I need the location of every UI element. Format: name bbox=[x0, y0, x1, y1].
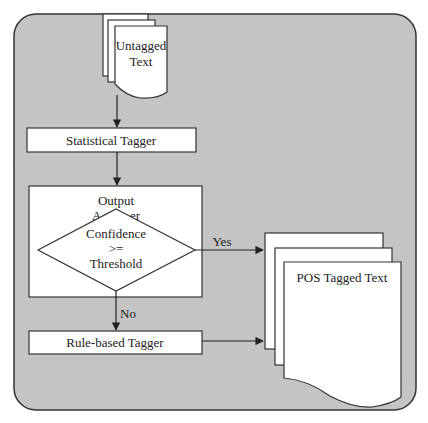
yes-label: Yes bbox=[213, 234, 232, 249]
flowchart-diagram: Untagged Text Statistical Tagger Output … bbox=[0, 0, 428, 423]
rule-based-tagger-label: Rule-based Tagger bbox=[66, 335, 164, 350]
statistical-tagger-node: Statistical Tagger bbox=[27, 128, 196, 152]
decision-line1: Confidence bbox=[86, 226, 146, 241]
untagged-label-line1: Untagged bbox=[116, 38, 167, 53]
rule-based-tagger-node: Rule-based Tagger bbox=[29, 331, 202, 354]
untagged-label-line2: Text bbox=[130, 54, 153, 69]
pos-tagged-label: POS Tagged Text bbox=[297, 270, 388, 285]
no-label: No bbox=[120, 306, 136, 321]
statistical-tagger-label: Statistical Tagger bbox=[66, 133, 157, 148]
decision-line2: >= bbox=[109, 241, 124, 256]
decision-line3: Threshold bbox=[90, 256, 143, 271]
output-analyzer-label: Output bbox=[98, 193, 135, 208]
